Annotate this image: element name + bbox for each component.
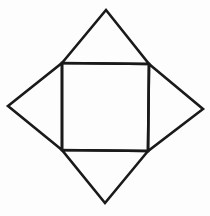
- base-square-face: [62, 63, 149, 151]
- bottom-triangle-face: [62, 150, 148, 203]
- left-triangle-face: [8, 63, 62, 150]
- right-triangle-face: [148, 64, 203, 151]
- top-triangle-face: [62, 10, 149, 64]
- diagram-canvas: [0, 0, 210, 216]
- square-pyramid-net: [0, 0, 210, 216]
